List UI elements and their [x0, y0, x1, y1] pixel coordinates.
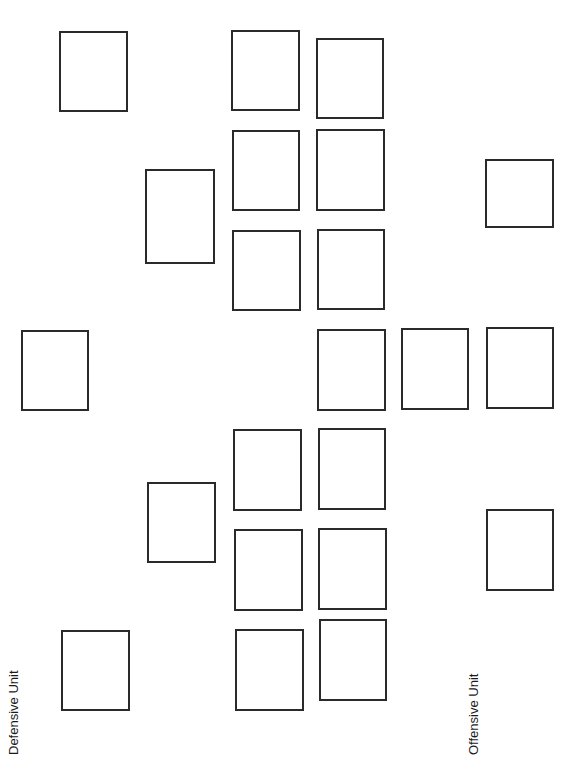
offensive-position-box[interactable]: [318, 428, 386, 510]
defensive-position-box[interactable]: [145, 169, 215, 264]
offensive-position-box[interactable]: [316, 38, 384, 119]
offensive-position-box[interactable]: [486, 509, 554, 591]
defensive-position-box[interactable]: [235, 629, 304, 711]
defensive-position-box[interactable]: [147, 482, 216, 563]
defensive-position-box[interactable]: [21, 330, 89, 411]
offensive-position-box[interactable]: [485, 159, 554, 228]
defensive-position-box[interactable]: [61, 630, 130, 711]
offensive-unit-label: Offensive Unit: [466, 674, 481, 755]
offensive-position-box[interactable]: [316, 129, 385, 211]
defensive-position-box[interactable]: [233, 429, 302, 511]
defensive-position-box[interactable]: [59, 31, 128, 112]
formation-diagram: Defensive Unit Offensive Unit: [0, 0, 565, 757]
defensive-position-box[interactable]: [232, 130, 300, 211]
defensive-unit-label: Defensive Unit: [6, 670, 21, 755]
defensive-position-box[interactable]: [232, 230, 301, 311]
offensive-position-box[interactable]: [318, 528, 387, 610]
offensive-position-box[interactable]: [317, 229, 385, 310]
offensive-position-box[interactable]: [486, 327, 554, 409]
defensive-position-box[interactable]: [234, 529, 303, 611]
offensive-position-box[interactable]: [317, 329, 386, 411]
offensive-position-box[interactable]: [319, 619, 387, 701]
defensive-position-box[interactable]: [231, 30, 300, 111]
offensive-position-box[interactable]: [401, 328, 469, 410]
